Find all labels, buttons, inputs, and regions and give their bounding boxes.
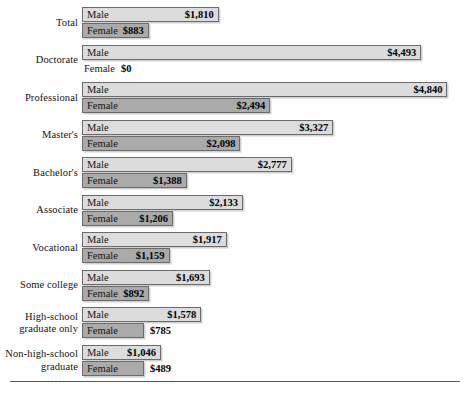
bar-male: Male$1,578 [82,307,201,322]
bar-value: $3,327 [299,122,329,133]
series-name: Female [86,363,118,374]
bar-value: $1,206 [139,213,169,224]
bar-value: $785 [150,323,171,338]
series-name: Female [86,325,118,336]
bar-female: Female [82,323,144,338]
bar-value: $1,388 [153,175,183,186]
series-name: Male [86,47,109,58]
bar-value: $2,494 [236,100,266,111]
bar-female: Female$1,159 [82,248,170,263]
bar-female: Female$883 [82,23,149,38]
bar-male: Male$4,840 [82,82,447,97]
series-name: Female [82,63,115,74]
series-name: Female [86,250,118,261]
bar-male: Male$3,327 [82,120,333,135]
bar-female: Female$2,494 [82,98,270,113]
series-name: Male [86,347,109,358]
series-name: Male [86,9,109,20]
series-name: Male [86,159,109,170]
series-name: Male [86,84,109,95]
category-label-line: Doctorate [36,54,78,67]
bar-male: Male$4,493 [82,45,421,60]
bar-value: $0 [121,63,133,74]
category-label-line: Bachelor's [33,167,78,180]
bar-female-empty: Female$0 [82,61,132,76]
category-label-line: Vocational [32,242,78,255]
chart-row: AssociateMale$2,133Female$1,206 [0,194,470,228]
category-label: Non-high-schoolgraduate [0,344,78,378]
chart-row: TotalMale$1,810Female$883 [0,6,470,40]
category-label: Associate [0,194,78,228]
category-label-line: graduate [41,361,78,374]
category-label: Master's [0,119,78,153]
series-name: Female [86,288,118,299]
category-label: High-schoolgraduate only [0,306,78,340]
bar-value: $1,693 [176,272,206,283]
bar-male: Male$1,917 [82,232,227,247]
bar-value: $4,493 [387,47,417,58]
category-label-line: High-school [25,311,78,324]
bar-male: Male$1,046 [82,345,161,360]
bar-male: Male$2,133 [82,195,243,210]
series-name: Female [86,25,118,36]
chart-row: Master'sMale$3,327Female$2,098 [0,119,470,153]
series-name: Male [86,122,109,133]
category-label-line: Some college [20,279,78,292]
bar-male: Male$1,810 [82,7,219,22]
series-name: Female [86,213,118,224]
bar-female: Female$2,098 [82,136,240,151]
category-label-line: Professional [25,92,78,105]
bar-value: $1,046 [127,347,157,358]
series-name: Male [86,234,109,245]
category-label-line: Non-high-school [5,348,78,361]
series-name: Male [86,197,109,208]
category-label-line: Total [56,17,78,30]
bar-value: $1,578 [167,309,197,320]
bar-value: $2,098 [207,138,237,149]
bar-value: $4,840 [414,84,444,95]
chart-row: Some collegeMale$1,693Female$892 [0,269,470,303]
chart-row: High-schoolgraduate onlyMale$1,578Female… [0,306,470,340]
category-label: Bachelor's [0,156,78,190]
bar-female: Female [82,361,144,376]
chart-row: ProfessionalMale$4,840Female$2,494 [0,81,470,115]
series-name: Male [86,272,109,283]
bottom-divider [10,381,460,382]
bar-value: $1,159 [136,250,166,261]
horizontal-bar-chart: TotalMale$1,810Female$883DoctorateMale$4… [0,0,470,395]
bar-male: Male$1,693 [82,270,210,285]
chart-row: DoctorateMale$4,493Female$0 [0,44,470,78]
bar-value: $489 [150,361,171,376]
chart-row: VocationalMale$1,917Female$1,159 [0,231,470,265]
category-label: Some college [0,269,78,303]
bar-value: $892 [123,288,145,299]
category-label: Total [0,6,78,40]
bar-value: $1,810 [185,9,215,20]
bar-female: Female$1,388 [82,173,187,188]
series-name: Male [86,309,109,320]
category-label: Professional [0,81,78,115]
bar-male: Male$2,777 [82,157,292,172]
category-label: Doctorate [0,44,78,78]
bar-female: Female$1,206 [82,211,173,226]
bar-value: $2,133 [209,197,239,208]
category-label-line: graduate only [19,323,78,336]
category-label-line: Associate [36,204,78,217]
series-name: Female [86,175,118,186]
bar-value: $1,917 [193,234,223,245]
category-label-line: Master's [42,129,78,142]
bar-value: $2,777 [258,159,288,170]
chart-row: Non-high-schoolgraduateMale$1,046Female$… [0,344,470,378]
series-name: Female [86,138,118,149]
series-name: Female [86,100,118,111]
bar-female: Female$892 [82,286,149,301]
chart-row: Bachelor'sMale$2,777Female$1,388 [0,156,470,190]
bar-value: $883 [123,25,145,36]
category-label: Vocational [0,231,78,265]
